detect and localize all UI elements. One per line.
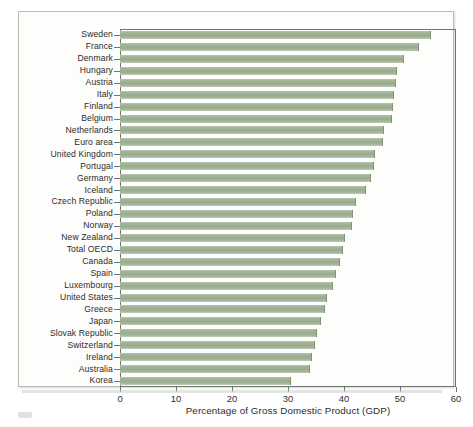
bar bbox=[120, 234, 345, 242]
y-axis-tick bbox=[114, 286, 120, 287]
y-axis-category-label: Hungary bbox=[19, 66, 113, 75]
y-axis-category-label: France bbox=[19, 42, 113, 51]
y-axis-category-label: Slovak Republic bbox=[19, 329, 113, 338]
y-axis-tick bbox=[114, 309, 120, 310]
bar bbox=[120, 162, 374, 170]
y-axis-tick bbox=[114, 381, 120, 382]
x-axis-title: Percentage of Gross Domestic Product (GD… bbox=[120, 405, 456, 416]
scan-artifact-mark bbox=[18, 412, 32, 418]
bar bbox=[120, 222, 352, 230]
chart-card: SwedenFranceDenmarkHungaryAustriaItalyFi… bbox=[18, 11, 454, 387]
bar bbox=[120, 353, 312, 361]
y-axis-category-label: Sweden bbox=[19, 30, 113, 39]
bar bbox=[120, 210, 353, 218]
y-axis-category-label: Euro area bbox=[19, 138, 113, 147]
y-axis-category-label: Canada bbox=[19, 257, 113, 266]
y-axis-tick bbox=[114, 238, 120, 239]
y-axis-tick bbox=[114, 214, 120, 215]
y-axis-tick bbox=[114, 59, 120, 60]
bar bbox=[120, 258, 340, 266]
y-axis-category-label: Korea bbox=[19, 376, 113, 385]
y-axis-category-label: Austria bbox=[19, 78, 113, 87]
y-axis-tick bbox=[114, 71, 120, 72]
bar bbox=[120, 198, 356, 206]
scan-artifact-shade bbox=[22, 390, 442, 393]
bar bbox=[120, 270, 336, 278]
y-axis-tick bbox=[114, 321, 120, 322]
x-axis-tick-label: 30 bbox=[268, 393, 308, 404]
y-axis-tick bbox=[114, 154, 120, 155]
x-axis-tick bbox=[456, 387, 457, 392]
y-axis-category-label: Germany bbox=[19, 174, 113, 183]
y-axis-category-label: Luxembourg bbox=[19, 281, 113, 290]
y-axis-category-label: Australia bbox=[19, 365, 113, 374]
x-axis-tick-label: 50 bbox=[380, 393, 420, 404]
y-axis-category-label: Netherlands bbox=[19, 126, 113, 135]
y-axis-category-label: Iceland bbox=[19, 186, 113, 195]
y-axis-category-label: Greece bbox=[19, 305, 113, 314]
bar bbox=[120, 43, 419, 51]
y-axis-tick bbox=[114, 226, 120, 227]
y-axis-tick bbox=[114, 190, 120, 191]
y-axis-tick bbox=[114, 274, 120, 275]
y-axis-tick bbox=[114, 250, 120, 251]
y-axis-category-label: Belgium bbox=[19, 114, 113, 123]
y-axis-tick bbox=[114, 107, 120, 108]
bar bbox=[120, 186, 366, 194]
y-axis-tick bbox=[114, 357, 120, 358]
y-axis-tick bbox=[114, 178, 120, 179]
y-axis-tick bbox=[114, 202, 120, 203]
x-axis-tick-label: 40 bbox=[324, 393, 364, 404]
bar bbox=[120, 55, 404, 63]
y-axis-category-label: Norway bbox=[19, 221, 113, 230]
bar bbox=[120, 317, 321, 325]
y-axis-tick bbox=[114, 166, 120, 167]
y-axis-category-label: Total OECD bbox=[19, 245, 113, 254]
y-axis-category-label: United Kingdom bbox=[19, 150, 113, 159]
bar bbox=[120, 377, 291, 385]
y-axis-category-label: United States bbox=[19, 293, 113, 302]
chart-figure: SwedenFranceDenmarkHungaryAustriaItalyFi… bbox=[0, 0, 473, 427]
y-axis-label-column: SwedenFranceDenmarkHungaryAustriaItalyFi… bbox=[19, 29, 113, 387]
bar bbox=[120, 31, 431, 39]
y-axis-tick bbox=[114, 95, 120, 96]
y-axis-tick bbox=[114, 345, 120, 346]
y-axis-tick bbox=[114, 333, 120, 334]
y-axis-tick bbox=[114, 130, 120, 131]
y-axis-tick bbox=[114, 35, 120, 36]
y-axis-tick bbox=[114, 298, 120, 299]
y-axis-category-label: Ireland bbox=[19, 353, 113, 362]
x-axis-tick-label: 10 bbox=[156, 393, 196, 404]
bar bbox=[120, 79, 396, 87]
bar-series bbox=[120, 29, 456, 387]
y-axis-category-label: Portugal bbox=[19, 162, 113, 171]
y-axis-tick bbox=[114, 142, 120, 143]
bar bbox=[120, 103, 393, 111]
bar bbox=[120, 138, 383, 146]
bar bbox=[120, 341, 315, 349]
bar bbox=[120, 282, 333, 290]
x-axis-tick-label: 0 bbox=[100, 393, 140, 404]
y-axis-category-label: Finland bbox=[19, 102, 113, 111]
y-axis-category-label: Switzerland bbox=[19, 341, 113, 350]
y-axis-category-label: Poland bbox=[19, 209, 113, 218]
y-axis-tick bbox=[114, 119, 120, 120]
y-axis-category-label: Italy bbox=[19, 90, 113, 99]
bar bbox=[120, 115, 392, 123]
bar bbox=[120, 126, 384, 134]
y-axis-category-label: Japan bbox=[19, 317, 113, 326]
x-axis-tick-label: 20 bbox=[212, 393, 252, 404]
y-axis-tick bbox=[114, 83, 120, 84]
y-axis-category-label: New Zealand bbox=[19, 233, 113, 242]
y-axis-tick bbox=[114, 47, 120, 48]
bar bbox=[120, 305, 325, 313]
y-axis-category-label: Spain bbox=[19, 269, 113, 278]
bar bbox=[120, 294, 327, 302]
bar bbox=[120, 329, 317, 337]
bar bbox=[120, 246, 343, 254]
y-axis-category-label: Czech Republic bbox=[19, 197, 113, 206]
y-axis-tick bbox=[114, 369, 120, 370]
bar bbox=[120, 150, 375, 158]
y-axis-tick bbox=[114, 262, 120, 263]
y-axis-category-label: Denmark bbox=[19, 54, 113, 63]
